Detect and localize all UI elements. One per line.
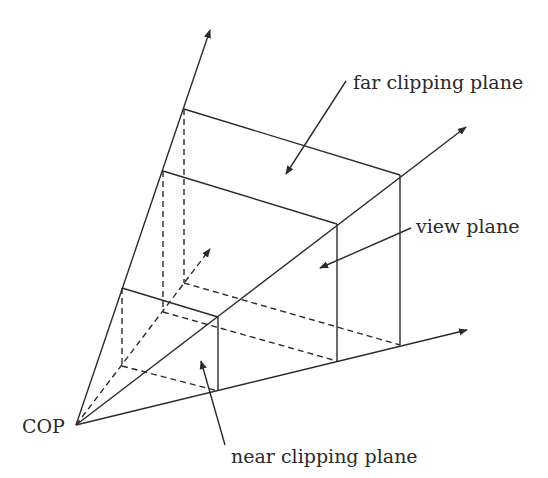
far-plane-pointer-arrow [286,81,346,174]
frustum-diagram: far clipping plane view plane near clipp… [0,0,548,478]
frustum-edge-diagonal [76,127,466,425]
far-clipping-plane-label: far clipping plane [353,73,523,92]
near-clipping-plane-label: near clipping plane [231,447,418,466]
center-axis-dashed [76,249,210,425]
frustum-edge-top [76,30,210,425]
frustum-edge-bottom [76,330,467,425]
near-clipping-plane [122,288,218,391]
view-plane-label: view plane [416,217,519,236]
near-plane-pointer-arrow [201,361,225,445]
cop-label: COP [22,417,65,436]
far-clipping-plane [184,109,400,345]
view-plane-pointer-arrow [320,228,411,268]
view-plane [163,171,337,361]
